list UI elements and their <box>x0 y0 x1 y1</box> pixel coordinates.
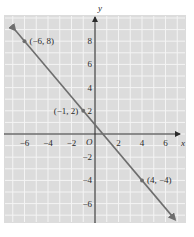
y-axis-label: y <box>97 3 102 13</box>
data-point-marker <box>81 109 85 113</box>
y-tick-label: 2 <box>88 106 93 116</box>
data-point-label: (−6, 8) <box>30 36 55 46</box>
y-tick-label: −2 <box>82 152 92 162</box>
data-point-label: (−1, 2) <box>54 106 79 116</box>
origin-label: O <box>86 137 93 147</box>
data-point-label: (4, −4) <box>147 175 172 185</box>
y-tick-label: −6 <box>82 199 92 209</box>
x-tick-label: −2 <box>67 138 77 148</box>
x-tick-label: 4 <box>140 138 145 148</box>
data-point-marker <box>140 178 144 182</box>
y-tick-label: 8 <box>88 36 93 46</box>
x-tick-label: −4 <box>43 138 53 148</box>
x-tick-label: −6 <box>20 138 30 148</box>
x-axis-label: x <box>180 138 185 148</box>
y-tick-label: 6 <box>88 59 93 69</box>
coordinate-plane: x y O −6−4−2246 8642−2−4−6 (−6, 8)(−1, 2… <box>0 0 194 237</box>
y-tick-label: 4 <box>88 83 93 93</box>
x-tick-label: 6 <box>163 138 168 148</box>
y-tick-label: −4 <box>82 175 92 185</box>
x-tick-label: 2 <box>116 138 121 148</box>
data-point-marker <box>23 39 27 43</box>
